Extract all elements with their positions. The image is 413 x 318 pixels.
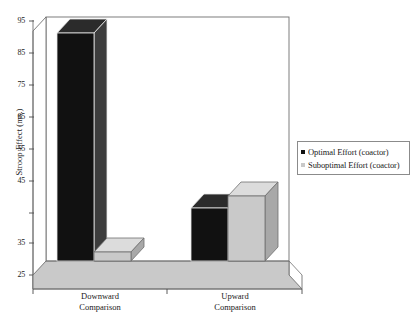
- category-label-upward-line2: Comparison: [180, 302, 290, 313]
- legend-label-suboptimal: Suboptimal Effort (coactor): [308, 160, 400, 170]
- category-label-downward: Downward Comparison: [45, 291, 155, 313]
- category-label-downward-line1: Downward: [45, 291, 155, 302]
- bar-downward-optimal: [57, 19, 107, 261]
- ytick-label-35: 35: [7, 239, 25, 247]
- chart-legend: Optimal Effort (coactor) Suboptimal Effo…: [297, 141, 410, 175]
- legend-swatch-optimal: [301, 150, 305, 154]
- legend-item-optimal: Optimal Effort (coactor): [301, 145, 407, 158]
- legend-swatch-suboptimal: [301, 163, 305, 167]
- legend-item-suboptimal: Suboptimal Effort (coactor): [301, 158, 407, 171]
- category-label-upward: Upward Comparison: [180, 291, 290, 313]
- legend-label-optimal: Optimal Effort (coactor): [308, 147, 389, 157]
- ytick-label-25: 25: [7, 271, 25, 279]
- category-label-upward-line1: Upward: [180, 291, 290, 302]
- ytick-label-95: 95: [7, 17, 25, 25]
- stroop-effect-bar-chart: 95 85 75 65 55 45 35 25 Stroop Effect (m…: [0, 0, 413, 318]
- category-label-downward-line2: Comparison: [45, 302, 155, 313]
- plot-floor: [33, 261, 302, 289]
- bar-upward-suboptimal: [228, 182, 278, 261]
- ytick-label-85: 85: [7, 49, 25, 57]
- plot-left-wall: [33, 17, 46, 289]
- y-axis-title: Stroop Effect (ms.): [14, 72, 24, 212]
